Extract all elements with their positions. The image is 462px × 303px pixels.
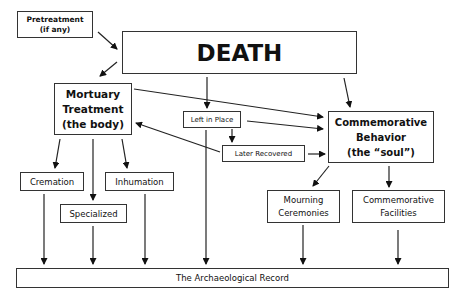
cremation-box: Cremation (20, 172, 84, 191)
death-label: DEATH (197, 40, 283, 66)
facilities-line2: Facilities (363, 207, 434, 220)
commemorative-line1: Commemorative (335, 115, 427, 130)
mortuary-line2: Treatment (62, 102, 124, 117)
mourning-line2: Ceremonies (278, 207, 329, 220)
commemorative-behavior-box: CommemorativeBehavior(the “soul”) (328, 111, 434, 163)
pretreatment-sublabel: (if any) (26, 25, 83, 35)
commemorative-line3: (the “soul”) (335, 145, 427, 160)
left-in-place-box: Left in Place (183, 111, 241, 128)
mortuary-treatment-box: MortuaryTreatment(the body) (54, 83, 132, 135)
specialized-box: Specialized (60, 204, 127, 223)
facilities-line1: Commemorative (363, 194, 434, 207)
commemorative-line2: Behavior (335, 130, 427, 145)
mourning-line1: Mourning (278, 194, 329, 207)
pretreatment-box: Pretreatment(if any) (17, 11, 93, 38)
pretreatment-label: Pretreatment (26, 15, 83, 25)
archaeological-record-label: The Archaeological Record (176, 273, 289, 283)
mortuary-line3: (the body) (62, 117, 124, 132)
death-box: DEATH (122, 31, 357, 74)
left-in-place-label: Left in Place (191, 116, 234, 124)
later-recovered-label: Later Recovered (235, 150, 292, 158)
later-recovered-box: Later Recovered (222, 145, 305, 162)
cremation-label: Cremation (30, 177, 74, 187)
archaeological-record-box: The Archaeological Record (16, 268, 449, 288)
inhumation-label: Inhumation (115, 177, 163, 187)
mortuary-line1: Mortuary (62, 87, 124, 102)
specialized-label: Specialized (69, 209, 117, 219)
mourning-ceremonies-box: MourningCeremonies (267, 190, 340, 223)
commemorative-facilities-box: CommemorativeFacilities (352, 190, 445, 223)
inhumation-box: Inhumation (105, 172, 174, 191)
